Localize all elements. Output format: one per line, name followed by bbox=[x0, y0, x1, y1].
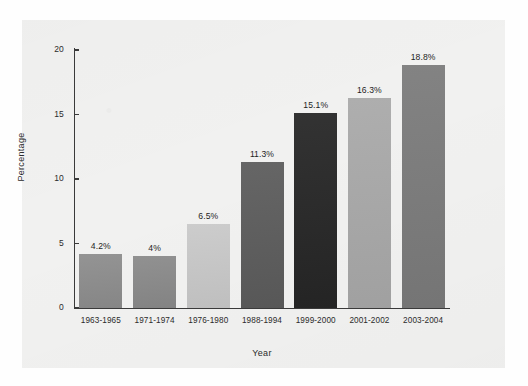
bar-shading bbox=[187, 224, 230, 308]
x-axis-category-label: 2003-2004 bbox=[389, 316, 457, 325]
bar bbox=[187, 224, 230, 308]
bar bbox=[294, 113, 337, 308]
y-tick-mark bbox=[74, 114, 79, 115]
bar-shading bbox=[294, 113, 337, 308]
bar-value-label: 4.2% bbox=[71, 241, 131, 251]
bar-value-label: 11.3% bbox=[232, 149, 292, 159]
y-tick-label-wrap: 0 bbox=[40, 302, 70, 314]
y-tick-label-wrap: 20 bbox=[40, 44, 70, 56]
bar-value-label: 6.5% bbox=[178, 211, 238, 221]
y-tick-label-wrap: 15 bbox=[40, 109, 70, 121]
bar-value-label: 18.8% bbox=[393, 52, 453, 62]
y-tick-mark bbox=[74, 307, 79, 308]
bar-shading bbox=[402, 65, 445, 308]
bar-value-label: 15.1% bbox=[286, 100, 346, 110]
bar bbox=[133, 256, 176, 308]
y-tick-label: 0 bbox=[38, 302, 64, 312]
y-tick-label-wrap: 10 bbox=[40, 173, 70, 185]
y-tick-label: 15 bbox=[38, 109, 64, 119]
bar-chart: 05101520 Percentage Year 4.2%4%6.5%11.3%… bbox=[0, 0, 528, 386]
bar-value-label: 16.3% bbox=[339, 85, 399, 95]
bar bbox=[348, 98, 391, 308]
y-tick-label-wrap: 5 bbox=[40, 238, 70, 250]
bar-shading bbox=[241, 162, 284, 308]
y-tick-mark bbox=[74, 49, 79, 50]
y-tick-label: 20 bbox=[38, 44, 64, 54]
bar bbox=[241, 162, 284, 308]
bar bbox=[79, 254, 122, 308]
bar-shading bbox=[79, 254, 122, 308]
bar bbox=[402, 65, 445, 308]
bar-value-label: 4% bbox=[125, 243, 185, 253]
y-axis-title: Percentage bbox=[16, 112, 26, 202]
x-axis-title: Year bbox=[74, 348, 450, 358]
y-tick-mark bbox=[74, 178, 79, 179]
y-tick-label: 5 bbox=[38, 238, 64, 248]
x-axis-line bbox=[74, 308, 450, 309]
y-tick-label: 10 bbox=[38, 173, 64, 183]
plot-area: 05101520 Percentage Year 4.2%4%6.5%11.3%… bbox=[0, 0, 528, 386]
bar-shading bbox=[348, 98, 391, 308]
bar-shading bbox=[133, 256, 176, 308]
